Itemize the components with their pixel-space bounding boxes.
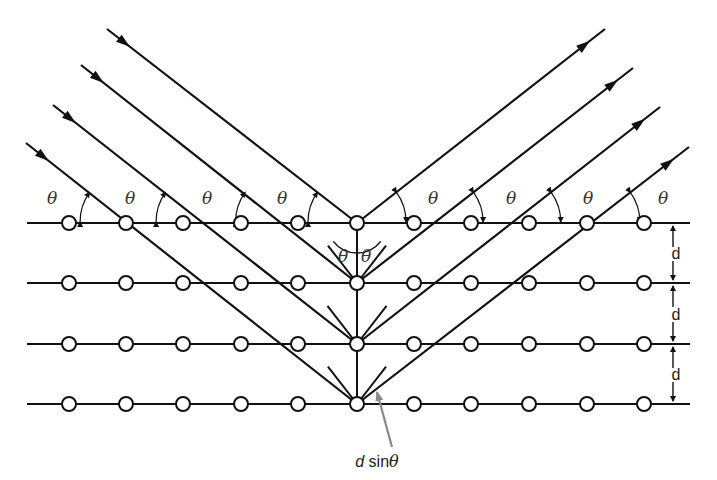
- atom: [119, 337, 133, 351]
- theta-arc: [308, 192, 317, 222]
- atom: [119, 276, 133, 290]
- atom: [522, 337, 536, 351]
- path-difference-pointer: [377, 392, 392, 447]
- atom: [350, 337, 364, 351]
- reflected-beam: [357, 68, 633, 283]
- reflected-beam: [357, 147, 689, 404]
- wavefront-lines: [327, 223, 386, 404]
- theta-label: θ: [277, 188, 287, 208]
- atom: [580, 276, 594, 290]
- incident-beam: [81, 65, 357, 283]
- theta-arc: [80, 192, 89, 222]
- atom: [407, 337, 421, 351]
- path-difference-label: d sinθ: [355, 452, 399, 471]
- atom: [522, 397, 536, 411]
- atom: [291, 337, 305, 351]
- theta-label: θ: [506, 188, 516, 208]
- theta-label: θ: [202, 188, 212, 208]
- center-theta-label: θ: [361, 246, 371, 266]
- atom: [580, 337, 594, 351]
- theta-label: θ: [583, 188, 593, 208]
- atom: [464, 276, 478, 290]
- atom: [234, 276, 248, 290]
- atom: [234, 397, 248, 411]
- theta-arc: [551, 192, 560, 222]
- atom: [234, 337, 248, 351]
- atom: [119, 216, 133, 230]
- atom: [464, 397, 478, 411]
- theta-label: θ: [47, 188, 57, 208]
- atom: [407, 216, 421, 230]
- reflected-beam: [357, 107, 660, 344]
- atom: [407, 276, 421, 290]
- lattice-planes: [27, 223, 690, 404]
- diagram-canvas: θθθθθθθθθθdddd sinθ: [0, 0, 717, 480]
- atom: [62, 337, 76, 351]
- atom: [350, 276, 364, 290]
- atom: [522, 216, 536, 230]
- atom: [350, 216, 364, 230]
- atom: [522, 276, 536, 290]
- atom: [407, 397, 421, 411]
- spacing-d-label: d: [672, 306, 681, 323]
- theta-label: θ: [125, 188, 135, 208]
- atom: [464, 337, 478, 351]
- atom: [291, 397, 305, 411]
- theta-arc: [397, 192, 406, 222]
- theta-label: θ: [658, 188, 668, 208]
- atom: [176, 216, 190, 230]
- atom: [62, 216, 76, 230]
- atom: [637, 276, 651, 290]
- atom: [464, 216, 478, 230]
- atom: [637, 216, 651, 230]
- atom: [291, 216, 305, 230]
- reflected-beam: [357, 29, 605, 223]
- atom: [119, 397, 133, 411]
- center-theta-label: θ: [338, 246, 348, 266]
- atom: [580, 397, 594, 411]
- atom: [62, 276, 76, 290]
- atom: [176, 337, 190, 351]
- atom: [176, 397, 190, 411]
- atom: [350, 397, 364, 411]
- incident-beam: [107, 29, 357, 223]
- atom: [580, 216, 594, 230]
- atom: [291, 276, 305, 290]
- bragg-diffraction-diagram: θθθθθθθθθθdddd sinθ Bragg diffraction fr…: [0, 0, 717, 480]
- spacing-d-label: d: [672, 366, 681, 383]
- spacing-d-label: d: [672, 245, 681, 262]
- atom: [234, 216, 248, 230]
- incident-beam: [26, 143, 357, 404]
- atom: [637, 397, 651, 411]
- theta-label: θ: [428, 188, 438, 208]
- atom: [176, 276, 190, 290]
- atom: [637, 337, 651, 351]
- atom: [62, 397, 76, 411]
- incident-beam: [53, 105, 357, 344]
- theta-arc: [156, 192, 165, 222]
